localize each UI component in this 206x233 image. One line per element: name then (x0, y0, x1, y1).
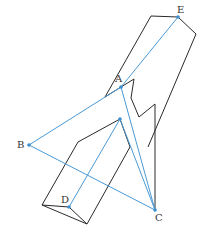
construction-lines (29, 17, 178, 210)
lower-strip (42, 119, 130, 224)
label-B: B (17, 139, 24, 150)
lower-strip-outline (42, 119, 130, 224)
label-C: C (155, 212, 163, 223)
point-B (27, 143, 31, 147)
label-D: D (61, 194, 69, 205)
point-F (118, 117, 122, 121)
segment-AB (29, 87, 121, 145)
points (27, 15, 180, 212)
diagram-canvas: A B C D E (0, 0, 206, 233)
segment-FC (120, 119, 155, 210)
point-E (176, 15, 180, 19)
label-E: E (177, 4, 184, 15)
point-D (67, 205, 71, 209)
labels: A B C D E (17, 4, 184, 223)
upper-strip (105, 16, 196, 210)
segment-BC (29, 145, 155, 210)
segment-AE (121, 17, 178, 87)
segment-DF (69, 119, 120, 207)
label-A: A (114, 73, 123, 84)
segment-AC (121, 87, 155, 210)
lower-strip-fold-edge-2 (69, 207, 87, 224)
point-A (119, 85, 123, 89)
